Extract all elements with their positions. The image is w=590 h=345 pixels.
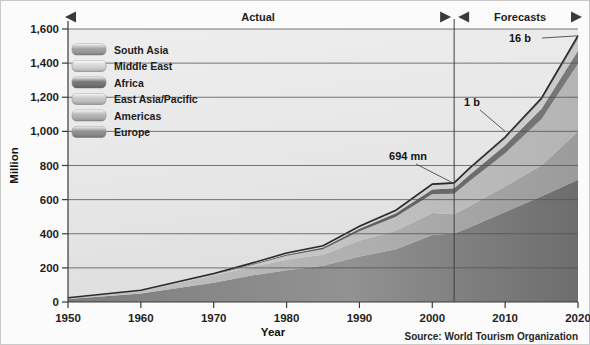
y-tick-label: 1,400 xyxy=(30,57,59,69)
period-arrows: ActualForecasts xyxy=(65,9,582,25)
y-tick-label: 1,600 xyxy=(30,23,59,35)
legend-item-label: Europe xyxy=(114,126,150,138)
annotation-label: 694 mn xyxy=(389,150,427,162)
x-tick-label: 1950 xyxy=(55,312,81,324)
y-tick-label: 800 xyxy=(40,160,59,172)
x-tick-label: 2020 xyxy=(565,312,590,324)
x-tick-label: 1990 xyxy=(347,312,373,324)
period-label-forecasts: Forecasts xyxy=(494,11,546,23)
legend-item-label: Americas xyxy=(114,110,161,122)
y-tick-label: 600 xyxy=(40,194,59,206)
source-note-text: Source: World Tourism Organization xyxy=(404,331,578,342)
legend-item[interactable]: East Asia/Pacific xyxy=(72,93,198,105)
x-tick-label: 1980 xyxy=(274,312,300,324)
legend-item-label: South Asia xyxy=(114,44,169,56)
x-axis-title-text: Year xyxy=(261,326,286,338)
legend-item-label: Africa xyxy=(114,77,144,89)
legend-item[interactable]: Middle East xyxy=(72,60,173,72)
annotation-label: 16 b xyxy=(509,32,531,44)
legend-item-label: East Asia/Pacific xyxy=(114,93,198,105)
y-axis-title-text: Million xyxy=(8,147,20,183)
y-tick-label: 0 xyxy=(53,296,59,308)
legend-item[interactable]: South Asia xyxy=(72,44,169,56)
x-tick-label: 1970 xyxy=(201,312,227,324)
y-tick-label: 1,000 xyxy=(30,125,59,137)
x-tick-label: 2010 xyxy=(492,312,518,324)
y-tick-label: 1,200 xyxy=(30,91,59,103)
x-tick-label: 1960 xyxy=(128,312,154,324)
period-label-actual: Actual xyxy=(241,11,275,23)
legend-item-label: Middle East xyxy=(114,60,173,72)
y-tick-label: 200 xyxy=(40,262,59,274)
legend-item[interactable]: Americas xyxy=(72,110,161,122)
stacked-area-chart: 02004006008001,0001,2001,4001,6001950196… xyxy=(0,0,590,345)
x-tick-label: 2000 xyxy=(419,312,445,324)
y-tick-label: 400 xyxy=(40,228,59,240)
annotation-label: 1 b xyxy=(464,96,480,108)
chart-figure: 02004006008001,0001,2001,4001,6001950196… xyxy=(0,0,590,345)
